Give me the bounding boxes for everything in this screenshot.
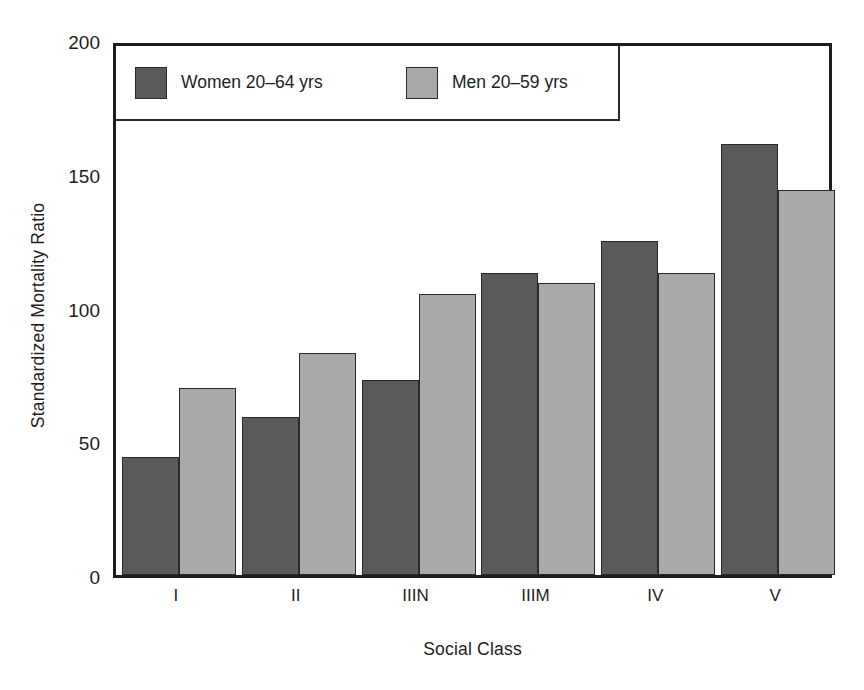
legend-entries: Women 20–64 yrsMen 20–59 yrs	[116, 46, 618, 119]
legend-swatch-women-icon	[135, 67, 167, 99]
bar-I-women	[122, 457, 179, 575]
legend-label: Men 20–59 yrs	[452, 72, 568, 93]
x-tick-label-II: II	[291, 586, 300, 606]
bar-IV-women	[601, 241, 658, 575]
x-tick-label-IV: IV	[647, 586, 663, 606]
bar-V-women	[721, 144, 778, 575]
x-tick-label-IIIM: IIIM	[521, 586, 549, 606]
bars-container	[116, 46, 829, 575]
bar-IV-men	[658, 273, 715, 575]
bar-II-men	[299, 353, 356, 575]
bar-IIIM-men	[538, 283, 595, 575]
bar-IIIN-men	[419, 294, 476, 575]
chart-figure: Standardized Mortality Ratio 05010015020…	[0, 0, 864, 690]
plot-area: Women 20–64 yrsMen 20–59 yrs	[113, 43, 832, 578]
x-tick-label-V: V	[769, 586, 780, 606]
legend-swatch-men-icon	[406, 67, 438, 99]
bar-IIIM-women	[481, 273, 538, 575]
x-axis-tick-labels: IIIIIINIIIMIVV	[113, 586, 832, 614]
bar-I-men	[179, 388, 236, 575]
legend-label: Women 20–64 yrs	[181, 72, 323, 93]
y-tick-label: 0	[30, 567, 100, 589]
y-axis-tick-labels: 050100150200	[30, 43, 100, 578]
legend-entry-women: Women 20–64 yrs	[135, 67, 323, 99]
bar-II-women	[242, 417, 299, 575]
y-tick-label: 100	[30, 300, 100, 322]
y-tick-label: 200	[30, 32, 100, 54]
x-tick-label-IIIN: IIIN	[402, 586, 428, 606]
y-tick-label: 50	[30, 433, 100, 455]
chart-legend: Women 20–64 yrsMen 20–59 yrs	[116, 46, 620, 121]
x-axis-title: Social Class	[113, 639, 832, 660]
x-tick-label-I: I	[174, 586, 179, 606]
legend-entry-men: Men 20–59 yrs	[406, 67, 568, 99]
bar-IIIN-women	[362, 380, 419, 575]
bar-V-men	[778, 190, 835, 575]
y-tick-label: 150	[30, 166, 100, 188]
